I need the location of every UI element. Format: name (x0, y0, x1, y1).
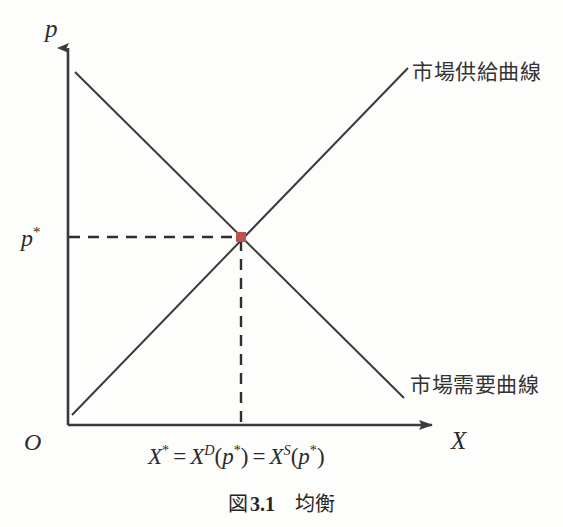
eq-p-base-1: p (222, 444, 234, 469)
eq-p-sup-1: * (234, 442, 241, 458)
eq-p-sup-2: * (310, 442, 317, 458)
eq-demand-base: X (190, 444, 204, 469)
caption-title: 均衡 (295, 492, 335, 516)
eq-close-paren-1: ) (241, 444, 249, 469)
equilibrium-equation: X*=XD(p*)=XS(p*) (148, 443, 325, 468)
origin-label: O (24, 430, 41, 454)
p-star-superscript: * (33, 224, 40, 240)
eq-equals-1: = (169, 444, 190, 469)
equilibrium-figure: p X O p* 市場供給曲線 市場需要曲線 X*=XD(p*)=XS(p*) … (0, 0, 563, 527)
y-axis-tick-label-p-star: p* (21, 225, 40, 250)
caption-number: 3.1 (248, 493, 277, 515)
eq-supply-base: X (269, 444, 283, 469)
y-axis-label: p (45, 16, 58, 41)
x-axis-label: X (451, 428, 466, 453)
demand-curve-label: 市場需要曲線 (410, 375, 539, 396)
eq-x-star-base: X (148, 444, 162, 469)
eq-close-paren-2: ) (317, 444, 325, 469)
eq-p-base-2: p (298, 444, 310, 469)
eq-equals-2: = (249, 444, 270, 469)
p-star-base: p (21, 225, 33, 251)
supply-curve-label: 市場供給曲線 (412, 62, 541, 83)
eq-demand-sup: D (204, 442, 214, 458)
eq-supply-sup: S (284, 442, 291, 458)
caption-prefix: 図 (228, 492, 248, 516)
equilibrium-point-marker (236, 232, 246, 242)
figure-caption: 図3.1均衡 (0, 488, 563, 517)
